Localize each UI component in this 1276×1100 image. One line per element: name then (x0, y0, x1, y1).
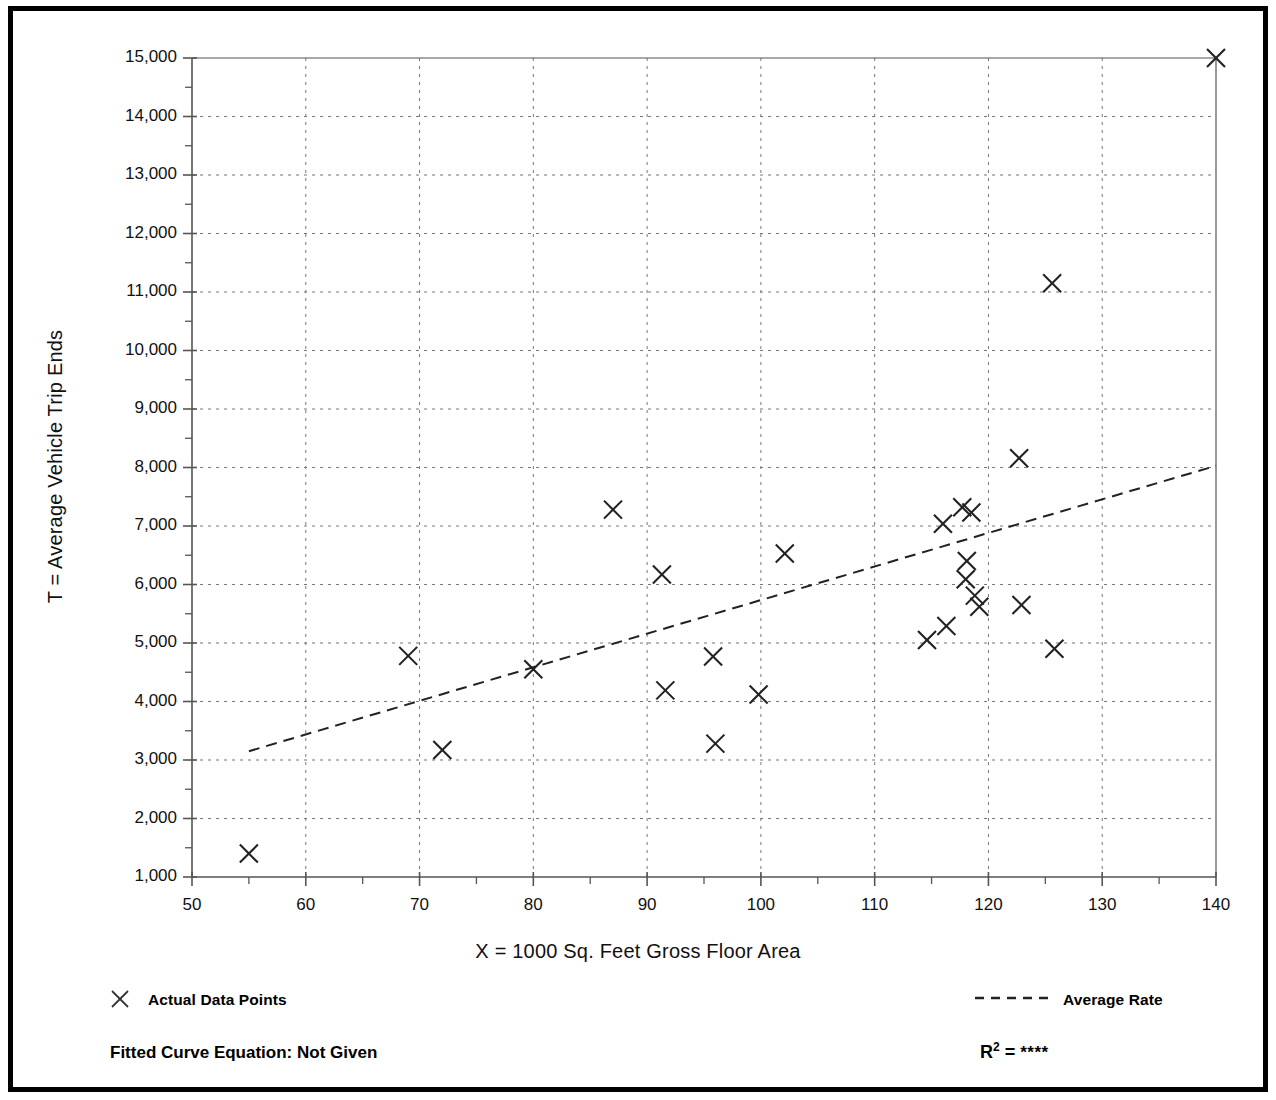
data-point-marker (1045, 640, 1063, 658)
data-point-marker (934, 515, 952, 533)
data-point-marker (962, 504, 980, 522)
y-axis-tick-label: 4,000 (73, 691, 177, 711)
r-squared-exponent: 2 (993, 1040, 1000, 1054)
average-rate-trend-line (249, 466, 1216, 751)
y-axis-tick-label: 13,000 (73, 164, 177, 184)
data-point-marker (1012, 596, 1030, 614)
x-axis-tick-label: 80 (493, 895, 573, 915)
data-point-marker (399, 647, 417, 665)
legend-label-average-rate: Average Rate (1063, 991, 1163, 1009)
data-point-marker (1010, 449, 1028, 467)
x-axis-tick-label: 120 (948, 895, 1028, 915)
data-point-marker (604, 501, 622, 519)
x-axis-tick-label: 60 (266, 895, 346, 915)
y-axis-tick-label: 8,000 (73, 457, 177, 477)
x-axis-tick-label: 130 (1062, 895, 1142, 915)
axis-ticks (183, 58, 1216, 886)
data-point-marker (706, 735, 724, 753)
x-axis-tick-label: 140 (1176, 895, 1256, 915)
data-point-marker (433, 741, 451, 759)
r-squared-equals: = (1000, 1042, 1021, 1062)
data-point-marker (656, 681, 674, 699)
y-axis-tick-label: 9,000 (73, 398, 177, 418)
data-points-group (240, 49, 1225, 863)
y-axis-tick-label: 2,000 (73, 808, 177, 828)
y-axis-title: T = Average Vehicle Trip Ends (44, 227, 67, 707)
x-axis-tick-label: 70 (380, 895, 460, 915)
data-point-marker (958, 552, 976, 570)
data-point-marker (704, 647, 722, 665)
r-squared-value: R2 = **** (980, 1040, 1049, 1063)
x-axis-tick-label: 50 (152, 895, 232, 915)
data-point-marker (918, 631, 936, 649)
y-axis-tick-label: 12,000 (73, 223, 177, 243)
r-squared-symbol: R (980, 1042, 993, 1062)
y-axis-tick-label: 3,000 (73, 749, 177, 769)
data-point-marker (653, 566, 671, 584)
data-point-marker (957, 570, 975, 588)
y-axis-tick-label: 11,000 (73, 281, 177, 301)
data-point-marker (240, 845, 258, 863)
y-axis-tick-label: 6,000 (73, 574, 177, 594)
data-point-marker (1043, 274, 1061, 292)
chart-figure: X = 1000 Sq. Feet Gross Floor Area T = A… (0, 0, 1276, 1100)
grid-lines (192, 58, 1216, 877)
data-point-marker (776, 545, 794, 563)
legend-label-actual-data-points: Actual Data Points (148, 991, 287, 1009)
y-axis-tick-label: 5,000 (73, 632, 177, 652)
data-point-marker (953, 498, 971, 516)
data-point-marker (750, 685, 768, 703)
y-axis-tick-label: 7,000 (73, 515, 177, 535)
x-axis-tick-label: 100 (721, 895, 801, 915)
x-axis-title: X = 1000 Sq. Feet Gross Floor Area (0, 940, 1276, 963)
r-squared-stars: **** (1020, 1043, 1048, 1062)
y-axis-tick-label: 10,000 (73, 340, 177, 360)
x-axis-tick-label: 90 (607, 895, 687, 915)
y-axis-tick-label: 14,000 (73, 106, 177, 126)
x-axis-tick-label: 110 (835, 895, 915, 915)
y-axis-tick-label: 1,000 (73, 866, 177, 886)
scatter-plot-canvas (0, 0, 1276, 1100)
fitted-curve-equation-text: Fitted Curve Equation: Not Given (110, 1043, 377, 1063)
y-axis-tick-label: 15,000 (73, 47, 177, 67)
data-point-marker (937, 617, 955, 635)
